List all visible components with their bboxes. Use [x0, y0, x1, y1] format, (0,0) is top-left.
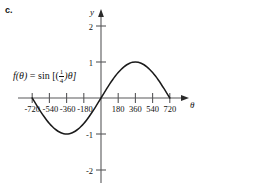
part-label: c. — [5, 5, 13, 15]
y-tick-label--2: -2 — [86, 166, 93, 176]
x-tick-label--180: -180 — [77, 104, 93, 114]
y-axis-arrowhead — [98, 9, 104, 17]
x-axis-arrowhead — [181, 95, 189, 101]
y-tick-label--1: -1 — [86, 130, 93, 140]
x-tick-label-720: 720 — [163, 104, 176, 114]
plot-svg: -720 -540 -360 -180 180 360 540 720 2 1 … — [0, 0, 274, 183]
x-tick-label-540: 540 — [146, 104, 159, 114]
y-axis-name-label: y — [89, 7, 94, 17]
x-tick-label-180: 180 — [112, 104, 125, 114]
function-lhs: f(θ) — [13, 70, 27, 81]
figure-container: c. f(θ) = sin [(14)θ] — [0, 0, 274, 183]
function-bracket-open: [( — [52, 70, 59, 81]
x-tick-label--360: -360 — [60, 104, 76, 114]
function-bracket-close: )θ] — [64, 70, 76, 81]
x-tick-label--540: -540 — [43, 104, 59, 114]
x-tick-label-360: 360 — [129, 104, 142, 114]
y-tick-label-2: 2 — [89, 22, 93, 32]
y-tick-label-1: 1 — [89, 58, 93, 68]
function-label: f(θ) = sin [(14)θ] — [13, 69, 76, 85]
function-operator: sin — [38, 70, 50, 81]
x-axis-name-label: θ — [190, 100, 195, 110]
